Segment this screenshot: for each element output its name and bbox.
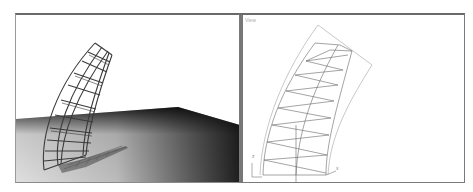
orthographic-viewport[interactable]: View xyxy=(239,13,465,183)
perspective-viewport[interactable] xyxy=(15,13,239,183)
axis-label-x: x xyxy=(336,165,339,171)
axis-label-z: z xyxy=(252,153,255,159)
perspective-render xyxy=(16,15,239,183)
orthographic-render xyxy=(240,15,465,183)
wireframe-fin xyxy=(263,43,352,183)
